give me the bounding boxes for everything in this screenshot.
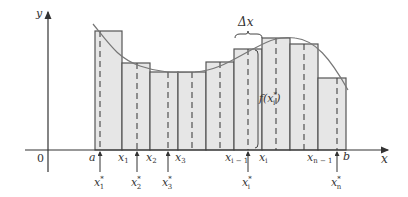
rectangle-1 — [95, 31, 122, 150]
height-label: f(x*i) — [258, 91, 281, 107]
label-x2: x2 — [146, 151, 157, 165]
label-xn-star: x*n — [331, 175, 342, 191]
x-axis-label: x — [381, 152, 388, 166]
label-xi: xi — [259, 151, 268, 165]
rectangle-3 — [150, 72, 178, 150]
label-x1: x1 — [118, 151, 129, 165]
rectangle-2 — [122, 63, 150, 150]
label-b: b — [343, 150, 350, 163]
sample-labels: x*1 x*2 x*3 x*i x*n — [94, 175, 342, 191]
label-x2-star: x*2 — [131, 175, 141, 191]
label-xim1: xi − 1 — [225, 151, 248, 165]
sample-arrows — [100, 152, 337, 172]
label-x3: x3 — [175, 151, 186, 165]
riemann-sum-diagram: y x 0 a x1 x2 x3 xi − 1 xi xn − 1 b x*1 … — [0, 0, 408, 197]
rectangle-9 — [318, 78, 346, 150]
y-axis-label: y — [35, 7, 43, 20]
delta-x-label: Δx — [237, 15, 254, 29]
origin-label: 0 — [37, 152, 44, 165]
label-a: a — [89, 151, 96, 164]
delta-x-brace — [235, 31, 262, 38]
label-xnm1: xn − 1 — [307, 151, 333, 165]
partition-labels: a x1 x2 x3 xi − 1 xi xn − 1 b — [89, 150, 350, 165]
label-xi-star: x*i — [242, 175, 252, 191]
label-x3-star: x*3 — [162, 175, 172, 191]
label-x1-star: x*1 — [94, 175, 104, 191]
